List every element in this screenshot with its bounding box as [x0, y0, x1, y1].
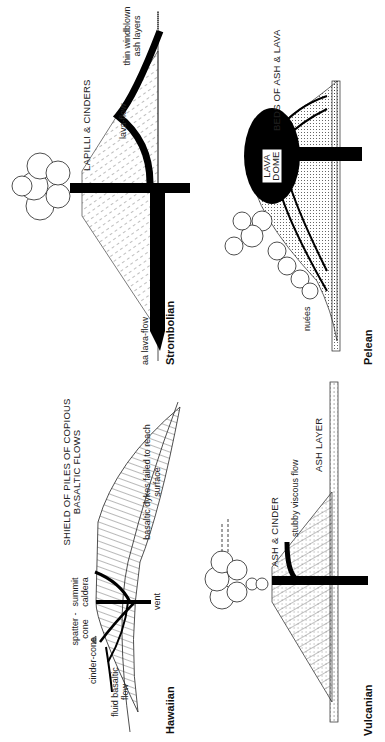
label-summit-caldera: summit caldera	[70, 572, 90, 612]
label-ash-cinder: ASH & CINDER	[270, 497, 280, 567]
label-aa-lava-flow: aa lava-flow	[140, 317, 150, 365]
panel-strombolian: Strombolian aa lava-flow LAPILLI & CINDE…	[0, 0, 192, 371]
label-basaltic-dykes: basaltic dykes failed to reach surface	[142, 412, 162, 552]
pelean-volcano-illustration	[192, 0, 385, 371]
panel-hawaiian: Hawaiian fluid basaltic flow cinder-cone…	[0, 371, 192, 742]
title-strombolian: Strombolian	[164, 301, 176, 365]
title-vulcanian: Vulcanian	[362, 684, 374, 736]
label-spatter-cone: spatter -cone	[70, 611, 90, 647]
volcano-eruption-types-diagram: Hawaiian fluid basaltic flow cinder-cone…	[0, 0, 385, 742]
label-fluid-basaltic-flow: fluid basaltic flow	[110, 662, 130, 722]
label-shield: SHIELD OF PILES OF COPIOUS BASALTIC FLOW…	[62, 382, 82, 562]
label-lava-dome: LAVA DOME	[262, 150, 280, 182]
vulcanian-volcano-illustration	[192, 371, 385, 742]
panel-pelean: Pelean nuées LAVA DOME BEDS OF ASH & LAV…	[192, 0, 385, 371]
label-lapilli-cinders: LAPILLI & CINDERS	[82, 79, 92, 171]
label-nuees: nuées	[302, 306, 312, 331]
panel-vulcanian: Vulcanian ASH & CINDER stubby viscous fl…	[192, 371, 385, 742]
label-windblown-ash: thin windblown ash layers	[122, 6, 142, 66]
label-vent: vent	[152, 593, 162, 610]
title-hawaiian: Hawaiian	[164, 686, 176, 734]
title-pelean: Pelean	[362, 330, 374, 365]
label-beds-ash-lava: BEDS OF ASH & LAVA	[272, 30, 282, 131]
label-ash-layer: ASH LAYER	[314, 418, 324, 472]
label-lava-flow: lava-flow	[118, 103, 128, 139]
label-stubby-viscous-flow: stubby viscous flow	[290, 459, 300, 537]
